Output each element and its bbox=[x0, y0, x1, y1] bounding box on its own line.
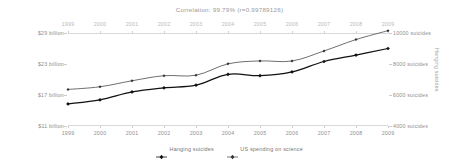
series-line bbox=[68, 49, 388, 104]
legend-marker-icon bbox=[156, 146, 167, 152]
spurious-correlation-chart: Correlation: 99.79% (r=0.99789126) 19992… bbox=[0, 0, 459, 167]
data-point-marker bbox=[323, 49, 326, 52]
data-point-marker bbox=[98, 98, 102, 102]
series-us-spending-on-science bbox=[67, 29, 390, 91]
data-point-marker bbox=[195, 74, 198, 77]
data-point-marker bbox=[322, 60, 326, 64]
data-point-marker bbox=[386, 47, 390, 51]
legend-label-us-spending-on-science: US spending on science bbox=[240, 146, 303, 152]
data-point-marker bbox=[194, 83, 198, 87]
data-point-marker bbox=[162, 86, 166, 90]
data-point-marker bbox=[258, 74, 262, 78]
series-line bbox=[68, 31, 388, 90]
data-point-marker bbox=[67, 88, 70, 91]
legend-item-us-spending-on-science[interactable]: US spending on science bbox=[227, 146, 303, 152]
data-point-marker bbox=[259, 59, 262, 62]
data-point-marker bbox=[226, 72, 230, 76]
series-hanging-suicides bbox=[66, 47, 390, 106]
data-point-marker bbox=[131, 79, 134, 82]
series-plot bbox=[0, 0, 459, 167]
legend-label-hanging-suicides: Hanging suicides bbox=[170, 146, 214, 152]
data-point-marker bbox=[290, 70, 294, 74]
legend-marker-icon bbox=[227, 146, 238, 152]
chart-legend: Hanging suicides US spending on science bbox=[0, 146, 459, 152]
data-point-marker bbox=[387, 29, 390, 32]
data-point-marker bbox=[99, 85, 102, 88]
data-point-marker bbox=[355, 38, 358, 41]
data-point-marker bbox=[354, 53, 358, 57]
data-point-marker bbox=[130, 90, 134, 94]
legend-item-hanging-suicides[interactable]: Hanging suicides bbox=[156, 146, 214, 152]
data-point-marker bbox=[227, 62, 230, 65]
data-point-marker bbox=[163, 74, 166, 77]
data-point-marker bbox=[66, 102, 70, 106]
data-point-marker bbox=[291, 59, 294, 62]
